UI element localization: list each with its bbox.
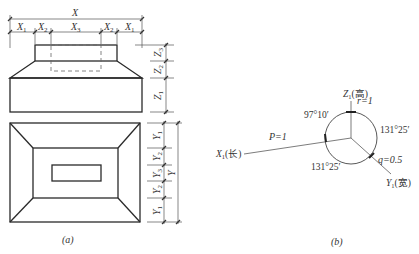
arc-mark-left	[325, 134, 326, 142]
plan-inner	[52, 165, 101, 181]
x-axis	[244, 138, 351, 154]
plan-view: Y1 Y2 Y3 Y2 Y1 Y	[10, 121, 182, 224]
dim-y2-top: Y2	[151, 151, 164, 161]
hidden-cavity	[51, 45, 101, 71]
dim-y-total: Y	[166, 169, 177, 176]
plan-outer	[10, 123, 140, 222]
caption-a: (a)	[62, 234, 74, 246]
dim-y3: Y3	[151, 168, 164, 178]
dim-z2: Z2	[152, 64, 165, 74]
hip-line-bl	[10, 198, 33, 222]
dim-y2-bottom: Y2	[151, 184, 164, 194]
coef-q: q=0.5	[378, 154, 402, 165]
y-dimension-chain: Y1 Y2 Y3 Y2 Y1 Y	[147, 121, 182, 224]
axis-label-x: X1(长)	[215, 148, 241, 160]
angle-zx: 97°10′	[304, 110, 329, 120]
top-dimension-chain: X X1 X2 X3 X2 X1	[8, 7, 144, 48]
upper-block	[35, 45, 117, 61]
dim-y1-top: Y1	[151, 130, 164, 140]
tapered-section	[10, 61, 142, 78]
dim-z1: Z1	[152, 90, 165, 100]
angle-xy: 131°25′	[311, 162, 341, 172]
plan-middle	[33, 148, 118, 198]
angle-zy: 131°25′	[380, 125, 410, 135]
hip-line-br	[118, 198, 140, 222]
diagram-canvas: X X1 X2 X3 X2 X1 Z3 Z2 Z1	[0, 0, 419, 254]
dim-y1-bottom: Y1	[151, 205, 164, 215]
axis-label-y: Y1(宽)	[386, 177, 411, 189]
coef-r: r=1	[357, 95, 373, 106]
hip-line-tl	[10, 123, 33, 148]
base-block	[10, 78, 142, 112]
caption-b: (b)	[331, 236, 343, 248]
elevation-view: X X1 X2 X3 X2 X1 Z3 Z2 Z1	[8, 7, 174, 114]
coef-p: P=1	[268, 131, 287, 142]
hip-line-tr	[118, 123, 140, 148]
dim-x-total: X	[71, 7, 79, 18]
dim-z3: Z3	[152, 47, 165, 57]
axonometric-axes: Z1(高) X1(长) Y1(宽) r=1 P=1 q=0.5 97°10′ 1…	[215, 88, 411, 189]
